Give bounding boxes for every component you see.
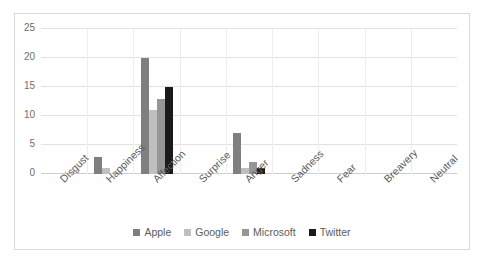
legend-swatch-icon <box>133 229 140 236</box>
chart-figure: 0510152025 DisgustHappinessAffectionSurp… <box>14 13 470 250</box>
legend-item[interactable]: Apple <box>133 227 171 238</box>
legend-swatch-icon <box>184 229 191 236</box>
bar-group <box>318 29 364 174</box>
legend-label: Apple <box>144 227 171 238</box>
legend-item[interactable]: Google <box>184 227 229 238</box>
y-axis-tick-label: 25 <box>24 23 35 33</box>
legend-label: Microsoft <box>253 227 296 238</box>
legend-item[interactable]: Microsoft <box>242 227 296 238</box>
y-axis-tick-label: 20 <box>24 52 35 62</box>
legend-label: Twitter <box>320 227 351 238</box>
bar <box>94 157 102 174</box>
legend-swatch-icon <box>309 229 316 236</box>
chart-legend: AppleGoogleMicrosoftTwitter <box>15 227 469 238</box>
y-axis-tick-label: 0 <box>29 168 35 178</box>
legend-item[interactable]: Twitter <box>309 227 351 238</box>
plot-area: 0510152025 <box>41 29 457 174</box>
bar-group <box>226 29 272 174</box>
bar <box>149 110 157 174</box>
y-axis-tick-label: 10 <box>24 110 35 120</box>
bar <box>233 133 241 174</box>
bar <box>141 58 149 174</box>
y-axis-tick-label: 15 <box>24 81 35 91</box>
legend-label: Google <box>195 227 229 238</box>
y-axis-tick-label: 5 <box>29 139 35 149</box>
legend-swatch-icon <box>242 229 249 236</box>
